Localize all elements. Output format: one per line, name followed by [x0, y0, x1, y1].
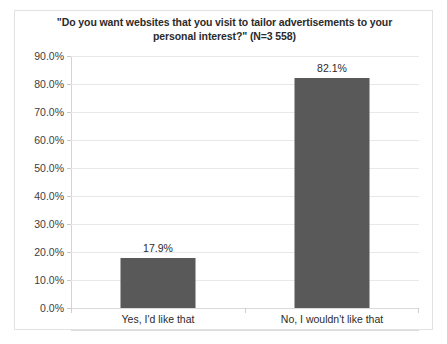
x-axis-category-label: Yes, I'd like that	[122, 313, 195, 325]
bar-value-label: 17.9%	[143, 242, 173, 254]
plot-area: 0.0%10.0%20.0%30.0%40.0%50.0%60.0%70.0%8…	[71, 56, 419, 308]
y-axis-tick-label: 40.0%	[34, 190, 64, 202]
x-axis-tick-mark	[71, 308, 72, 313]
bar[interactable]	[295, 78, 370, 308]
y-axis-tick-label: 90.0%	[34, 50, 64, 62]
y-axis-tick-label: 0.0%	[40, 302, 64, 314]
y-axis-tick-label: 50.0%	[34, 162, 64, 174]
x-axis-category-label: No, I wouldn't like that	[281, 313, 383, 325]
y-axis-tick-label: 20.0%	[34, 246, 64, 258]
chart-title-line-1: "Do you want websites that you visit to …	[57, 16, 392, 28]
bar[interactable]	[121, 258, 196, 308]
x-axis-tick-mark	[245, 308, 246, 313]
chart-title: "Do you want websites that you visit to …	[15, 15, 434, 43]
x-axis: Yes, I'd like thatNo, I wouldn't like th…	[71, 308, 419, 331]
x-axis-line	[71, 330, 419, 331]
y-axis-tick-label: 10.0%	[34, 274, 64, 286]
y-axis-tick-label: 70.0%	[34, 106, 64, 118]
chart-container: "Do you want websites that you visit to …	[14, 10, 433, 330]
y-axis-tick-label: 60.0%	[34, 134, 64, 146]
y-axis-tick-label: 80.0%	[34, 78, 64, 90]
bar-slot: 17.9%	[71, 56, 245, 308]
bar-slot: 82.1%	[245, 56, 419, 308]
chart-title-line-2: personal interest?" (N=3 558)	[153, 30, 296, 42]
x-axis-tick-mark	[418, 308, 419, 313]
y-axis-tick-label: 30.0%	[34, 218, 64, 230]
bar-value-label: 82.1%	[317, 62, 347, 74]
